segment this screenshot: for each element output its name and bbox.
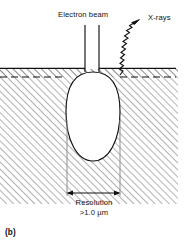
xray-arrowhead	[132, 20, 140, 25]
resolution-value-label: >1.0 µm	[67, 208, 121, 217]
electron-beam-label: Electron beam	[58, 10, 108, 19]
electron-beam-rays	[85, 25, 99, 72]
xray-wavy-ray	[120, 20, 140, 76]
panel-label: (b)	[5, 228, 16, 237]
resolution-label: Resolution	[67, 198, 121, 207]
xrays-label: X-rays	[148, 13, 171, 22]
figure-panel-b: Electron beam X-rays Resolution >1.0 µm …	[0, 0, 190, 246]
interaction-volume	[66, 72, 120, 161]
